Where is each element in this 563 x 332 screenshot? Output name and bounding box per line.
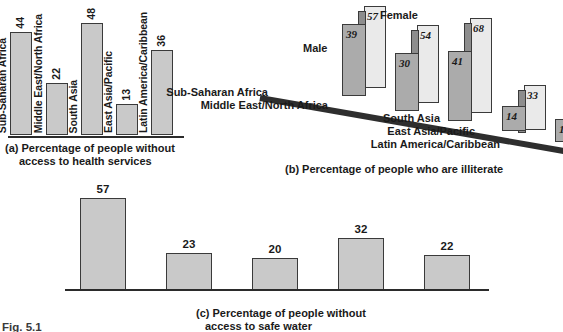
chart-a-bar-label: Latin America/Caribbean xyxy=(138,12,149,133)
bar xyxy=(10,32,32,135)
chart-a-caption: (a) Percentage of people without access … xyxy=(5,142,190,169)
chart-b-category-label-1: Middle East/North Africa xyxy=(98,100,328,111)
bar xyxy=(424,255,470,290)
chart-c-baseline xyxy=(65,289,489,291)
series-label-female: Female xyxy=(380,10,418,21)
chart-b-category-label-2: South Asia xyxy=(210,113,440,124)
chart-c-caption: (c) Percentage of people without access … xyxy=(196,307,366,332)
chart-c-plot-area: 57 Sub-Saharan Africa 23 Middle East/ No… xyxy=(65,190,485,290)
figure-caption: Fig. 5.1 xyxy=(2,321,42,332)
female-value: 57 xyxy=(367,11,378,22)
female-value: 68 xyxy=(473,23,484,34)
chart-a-baseline xyxy=(8,136,184,138)
chart-c-caption-line2: access to safe water xyxy=(196,320,366,332)
male-value: 13 xyxy=(559,124,563,135)
chart-a-bar-value: 48 xyxy=(86,8,97,20)
series-label-male: Male xyxy=(303,43,327,54)
bar xyxy=(338,238,384,290)
chart-c-caption-line1: (c) Percentage of people without xyxy=(196,307,366,319)
chart-a-bar-value: 44 xyxy=(15,17,26,29)
chart-c-bar-value: 23 xyxy=(151,239,227,251)
male-value: 39 xyxy=(346,29,357,40)
bar xyxy=(166,253,212,290)
chart-b-category-label-4: Latin America/Caribbean xyxy=(230,139,500,150)
chart-a-bar-label: Middle East/North Africa xyxy=(33,14,44,133)
chart-c-bar-value: 22 xyxy=(409,241,485,253)
bar xyxy=(81,23,103,135)
male-value: 14 xyxy=(506,111,517,122)
chart-b-category-label-0: Sub-Saharan Africa xyxy=(68,87,268,98)
female-value: 33 xyxy=(527,90,538,101)
chart-b-plot-area: 57 39 54 30 68 41 33 14 xyxy=(190,0,563,155)
bar xyxy=(80,198,126,290)
male-value: 41 xyxy=(452,56,463,67)
chart-b-illiteracy: 57 39 54 30 68 41 33 14 xyxy=(190,0,563,190)
chart-c-bar-value: 20 xyxy=(237,244,313,256)
chart-a-caption-line1: (a) Percentage of people without xyxy=(5,142,175,154)
chart-a-caption-line2: access to health services xyxy=(5,155,190,168)
male-value: 30 xyxy=(399,58,410,69)
chart-a-bar-label: Sub-Saharan Africa xyxy=(0,38,8,133)
chart-a-bar-value: 36 xyxy=(156,35,167,47)
bar xyxy=(46,83,68,135)
female-value: 54 xyxy=(420,30,431,41)
chart-a-health-services: Sub-Saharan Africa 44 Middle East/North … xyxy=(0,0,190,170)
chart-b-caption: (b) Percentage of people who are illiter… xyxy=(285,163,503,175)
chart-c-bar-value: 32 xyxy=(323,224,399,236)
bar xyxy=(252,258,298,290)
chart-a-bar-value: 22 xyxy=(51,68,62,80)
chart-c-bar-value: 57 xyxy=(65,184,141,196)
chart-a-plot-area: Sub-Saharan Africa 44 Middle East/North … xyxy=(6,4,178,135)
chart-b-category-label-3: East Asia/Pacific xyxy=(230,126,475,137)
